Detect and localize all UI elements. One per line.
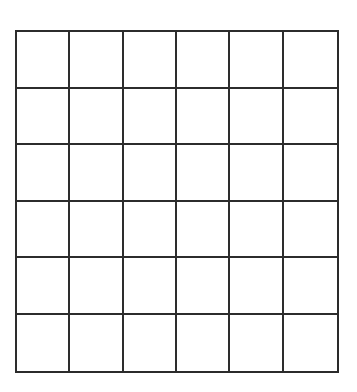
grid-cell[interactable] [70,89,123,146]
grid-cell[interactable] [17,258,70,315]
grid-cell[interactable] [17,32,70,89]
grid-cell[interactable] [177,32,230,89]
grid-cell[interactable] [177,145,230,202]
grid-cell[interactable] [124,145,177,202]
grid-cell[interactable] [17,145,70,202]
grid-cell[interactable] [230,32,283,89]
grid-cell[interactable] [230,145,283,202]
grid-cell[interactable] [70,32,123,89]
grid-cell[interactable] [230,315,283,372]
grid-cell[interactable] [124,315,177,372]
grid-cell[interactable] [284,32,337,89]
grid-cell[interactable] [17,315,70,372]
grid-cell[interactable] [70,145,123,202]
grid-cell[interactable] [230,258,283,315]
grid-cell[interactable] [70,202,123,259]
grid-cell[interactable] [124,202,177,259]
grid-cell[interactable] [70,315,123,372]
grid-cell[interactable] [230,202,283,259]
grid-cell[interactable] [230,89,283,146]
grid-cell[interactable] [124,258,177,315]
grid-cell[interactable] [177,258,230,315]
grid-cell[interactable] [177,89,230,146]
grid-table [15,30,339,373]
grid-cell[interactable] [284,202,337,259]
grid-cell[interactable] [70,258,123,315]
grid-cell[interactable] [177,202,230,259]
grid-cell[interactable] [177,315,230,372]
page-surface [0,0,357,392]
grid-cell[interactable] [17,202,70,259]
grid-cell[interactable] [124,32,177,89]
grid-cell[interactable] [124,89,177,146]
grid-cell[interactable] [284,315,337,372]
grid-cell[interactable] [284,145,337,202]
grid-cell[interactable] [17,89,70,146]
grid-cell[interactable] [284,89,337,146]
grid-cell[interactable] [284,258,337,315]
